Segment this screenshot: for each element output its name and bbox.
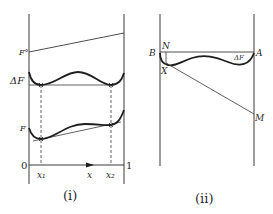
f0-line xyxy=(29,33,124,52)
caption-i: (i) xyxy=(63,188,77,203)
diagram-canvas: F° ΔF F 0 1 x₁ x x₂ (i) B N A X M ΔF (ii… xyxy=(0,0,273,214)
line-xm xyxy=(166,63,254,114)
label-m: M xyxy=(254,113,265,123)
delta-f-curve xyxy=(29,72,124,85)
label-f: F xyxy=(19,124,26,133)
label-one: 1 xyxy=(126,160,132,171)
label-n: N xyxy=(161,41,171,51)
label-b: B xyxy=(148,48,156,58)
f-curve xyxy=(29,110,124,139)
label-origin: 0 xyxy=(21,160,27,171)
label-a: A xyxy=(255,48,263,58)
caption-ii: (ii) xyxy=(195,191,213,206)
panel-i: F° ΔF F 0 1 x₁ x x₂ (i) xyxy=(9,14,132,203)
label-x: x xyxy=(87,170,92,180)
label-delta-f: ΔF xyxy=(233,54,245,62)
label-delta-f: ΔF xyxy=(9,75,25,86)
label-x2: x₂ xyxy=(106,170,115,180)
label-x: X xyxy=(160,66,168,76)
x-axis-arrow-icon xyxy=(86,163,94,168)
label-f0: F° xyxy=(18,48,29,57)
panel-ii: B N A X M ΔF (ii) xyxy=(148,14,265,206)
label-x1: x₁ xyxy=(37,170,46,180)
